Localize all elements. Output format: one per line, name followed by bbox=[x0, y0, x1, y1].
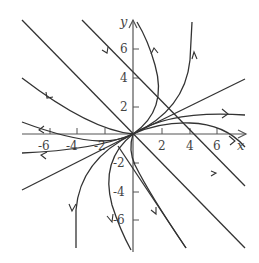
x-tick-label: 6 bbox=[213, 139, 221, 153]
x-tick-label: -4 bbox=[66, 139, 78, 153]
x-tick-label: 2 bbox=[158, 139, 166, 153]
arrow-lower-right-loop-icon bbox=[151, 207, 156, 214]
trajectory-line-upper-left-1 bbox=[82, 20, 245, 186]
y-tick-label: 6 bbox=[120, 42, 128, 56]
arrow-curve-upper-right-1-icon bbox=[192, 52, 197, 59]
arrow-curve-lower-left-1-icon bbox=[41, 152, 47, 159]
y-tick-label: -4 bbox=[113, 185, 125, 199]
y-axis-label: y bbox=[119, 14, 128, 29]
y-tick-label: -2 bbox=[113, 156, 125, 170]
y-tick-label: 4 bbox=[120, 71, 128, 85]
arrow-line-upper-left-1-icon bbox=[102, 47, 108, 53]
x-tick-label: 4 bbox=[186, 139, 194, 153]
arrow-curve-upper-right-loop-icon bbox=[151, 48, 158, 54]
phase-portrait-diagram: -6 -4 -2 2 4 6 6 4 2 -2 -4 -6 x y bbox=[0, 0, 259, 263]
trajectory-curve-upper-left bbox=[22, 78, 133, 134]
y-tick-label: 2 bbox=[120, 100, 128, 114]
arrow-line-lower-right-icon bbox=[211, 171, 216, 176]
arrow-curve-lower-left-2-icon bbox=[69, 204, 76, 211]
arrow-curve-upper-left-icon bbox=[46, 92, 53, 98]
